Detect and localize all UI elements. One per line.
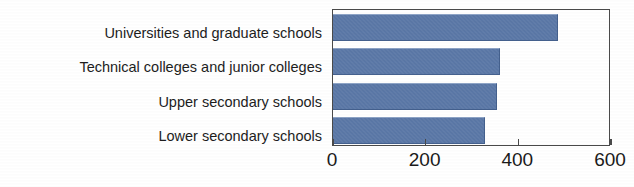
bar-chart-figure: Panel 2. Universities and graduate schoo… xyxy=(0,0,634,187)
category-label-upper-secondary: Upper secondary schools xyxy=(0,94,322,111)
x-axis-label-0: 0 xyxy=(327,149,338,171)
x-axis-tick-labels: 0 200 400 600 xyxy=(332,149,610,175)
category-label-column: Universities and graduate schools Techni… xyxy=(0,9,326,146)
x-axis-label-600: 600 xyxy=(594,149,626,171)
bar-lower-secondary xyxy=(333,117,485,144)
bar-upper-secondary xyxy=(333,83,497,110)
plot-inner xyxy=(333,10,609,145)
x-tick-600 xyxy=(610,139,612,145)
category-label-technical-colleges: Technical colleges and junior colleges xyxy=(0,59,322,76)
x-tick-400 xyxy=(518,139,520,145)
bar-technical-colleges xyxy=(333,48,500,75)
x-axis-label-200: 200 xyxy=(409,149,441,171)
x-tick-0 xyxy=(332,139,334,145)
plot-area xyxy=(332,9,610,146)
bar-universities xyxy=(333,14,558,41)
x-axis-label-400: 400 xyxy=(501,149,533,171)
category-label-universities: Universities and graduate schools xyxy=(0,25,322,42)
x-tick-200 xyxy=(425,139,427,145)
category-label-lower-secondary: Lower secondary schools xyxy=(0,128,322,145)
